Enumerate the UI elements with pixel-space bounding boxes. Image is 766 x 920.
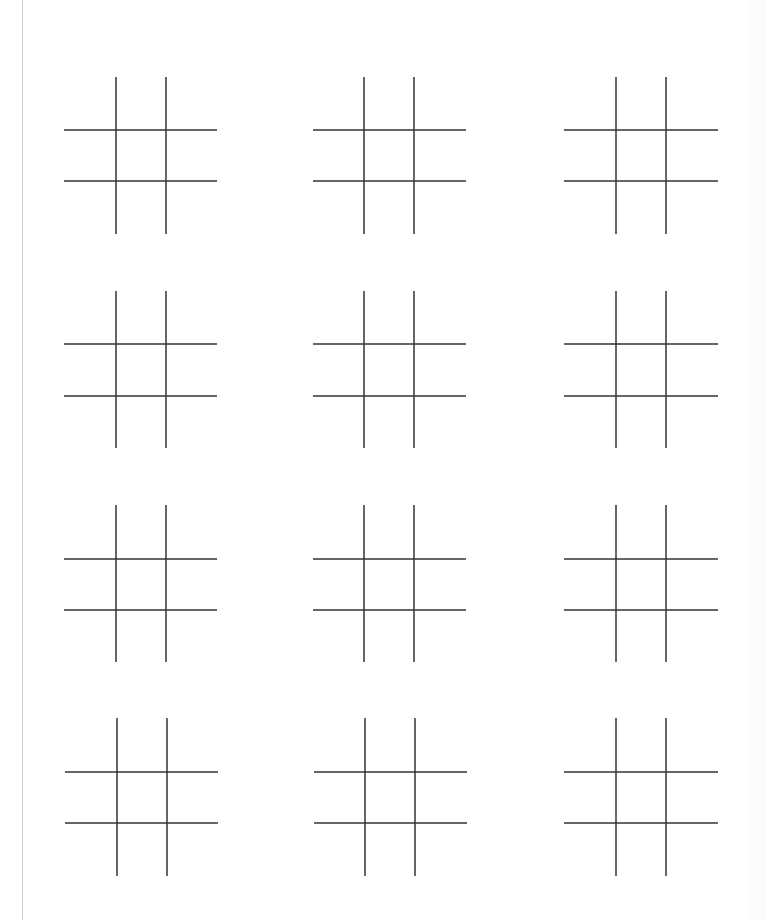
tic-tac-toe-board-r2-c2	[313, 291, 467, 449]
grid-lines	[564, 718, 719, 877]
tic-tac-toe-board-r2-c3	[564, 291, 719, 449]
tic-tac-toe-board-r3-c3	[564, 505, 719, 663]
grid-lines	[65, 718, 219, 877]
grid-lines	[64, 77, 218, 235]
page-edge	[748, 0, 766, 920]
grid-lines	[313, 505, 467, 663]
grid-lines	[564, 505, 719, 663]
grid-lines	[314, 718, 468, 877]
tic-tac-toe-board-r1-c2	[313, 77, 467, 235]
grid-lines	[64, 505, 218, 663]
grid-lines	[564, 291, 719, 449]
grid-lines	[313, 77, 467, 235]
tic-tac-toe-board-r3-c1	[64, 505, 218, 663]
tic-tac-toe-board-r2-c1	[64, 291, 218, 449]
grid-lines	[313, 291, 467, 449]
tic-tac-toe-board-r3-c2	[313, 505, 467, 663]
tic-tac-toe-board-r4-c1	[65, 718, 219, 877]
tic-tac-toe-board-r1-c1	[64, 77, 218, 235]
grid-lines	[64, 291, 218, 449]
grid-lines	[564, 77, 719, 235]
tic-tac-toe-board-r4-c3	[564, 718, 719, 877]
tic-tac-toe-board-r4-c2	[314, 718, 468, 877]
tic-tac-toe-board-r1-c3	[564, 77, 719, 235]
